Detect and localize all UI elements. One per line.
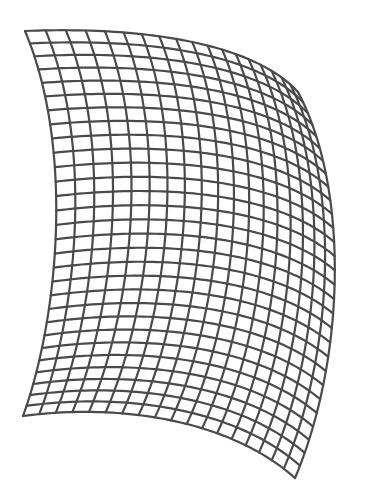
warped-grid-mesh	[0, 0, 369, 499]
grid-row-lines	[23, 30, 335, 478]
grid-row-line	[45, 330, 324, 386]
